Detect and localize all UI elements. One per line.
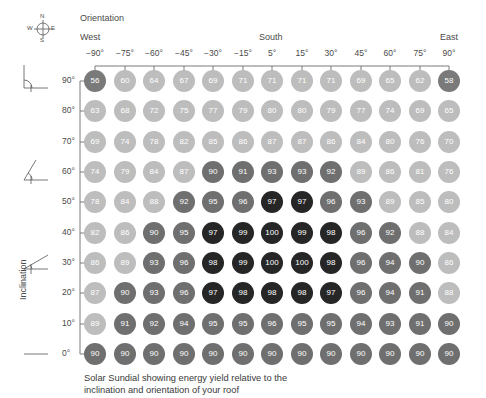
yield-cell: 69 xyxy=(409,100,431,122)
orientation-tick: −45° xyxy=(169,48,199,58)
yield-cell: 60 xyxy=(114,70,136,92)
yield-cell: 90 xyxy=(202,161,224,183)
yield-cell: 80 xyxy=(261,100,283,122)
inclination-axis-label: Inclination xyxy=(18,259,28,300)
yield-cell: 90 xyxy=(438,313,460,335)
yield-cell: 87 xyxy=(84,282,106,304)
yield-cell: 74 xyxy=(379,100,401,122)
yield-cell: 91 xyxy=(114,313,136,335)
yield-cell: 97 xyxy=(261,191,283,213)
yield-cell: 94 xyxy=(350,313,372,335)
yield-cell: 88 xyxy=(409,222,431,244)
caption-line-2: inclination and orientation of your roof xyxy=(84,384,384,396)
yield-cell: 69 xyxy=(202,70,224,92)
yield-cell: 90 xyxy=(202,343,224,365)
yield-cell: 86 xyxy=(84,252,106,274)
orientation-tick: 15° xyxy=(287,48,317,58)
yield-cell: 64 xyxy=(143,70,165,92)
yield-cell: 90 xyxy=(320,343,342,365)
inclination-bracket xyxy=(80,81,85,354)
yield-cell: 92 xyxy=(173,191,195,213)
yield-cell: 89 xyxy=(350,161,372,183)
yield-cell: 87 xyxy=(291,131,313,153)
yield-cell: 77 xyxy=(202,100,224,122)
yield-cell: 74 xyxy=(84,161,106,183)
inclination-tick: 20° xyxy=(62,287,86,297)
yield-cell: 86 xyxy=(114,222,136,244)
yield-cell: 90 xyxy=(143,222,165,244)
yield-cell: 92 xyxy=(320,161,342,183)
yield-cell: 96 xyxy=(350,282,372,304)
orientation-tick: −60° xyxy=(139,48,169,58)
inclination-tick: 50° xyxy=(62,196,86,206)
yield-cell: 91 xyxy=(232,161,254,183)
yield-cell: 70 xyxy=(438,131,460,153)
yield-cell: 91 xyxy=(409,313,431,335)
orientation-tick: 45° xyxy=(346,48,376,58)
inclination-tick: 60° xyxy=(62,166,86,176)
east-label: East xyxy=(440,32,458,42)
yield-cell: 65 xyxy=(438,100,460,122)
orientation-tick: −90° xyxy=(80,48,110,58)
yield-cell: 86 xyxy=(379,161,401,183)
yield-cell: 89 xyxy=(379,191,401,213)
yield-cell: 90 xyxy=(114,282,136,304)
inclination-tick: 10° xyxy=(62,318,86,328)
yield-cell: 92 xyxy=(379,222,401,244)
yield-cell: 97 xyxy=(291,191,313,213)
yield-cell: 98 xyxy=(261,282,283,304)
yield-cell: 71 xyxy=(261,70,283,92)
yield-cell: 65 xyxy=(379,70,401,92)
yield-cell: 62 xyxy=(409,70,431,92)
yield-cell: 86 xyxy=(232,131,254,153)
yield-cell: 89 xyxy=(84,313,106,335)
yield-cell: 88 xyxy=(143,191,165,213)
yield-cell: 86 xyxy=(438,252,460,274)
orientation-tick: 5° xyxy=(257,48,287,58)
yield-cell: 79 xyxy=(114,161,136,183)
yield-cell: 90 xyxy=(438,343,460,365)
yield-cell: 90 xyxy=(379,343,401,365)
yield-cell: 90 xyxy=(232,343,254,365)
yield-cell: 76 xyxy=(438,161,460,183)
yield-cell: 85 xyxy=(202,131,224,153)
yield-cell: 79 xyxy=(232,100,254,122)
yield-cell: 96 xyxy=(261,313,283,335)
inclination-tick: 40° xyxy=(62,227,86,237)
yield-cell: 93 xyxy=(143,252,165,274)
yield-cell: 94 xyxy=(379,252,401,274)
compass-icon xyxy=(34,20,52,38)
yield-cell: 90 xyxy=(409,252,431,274)
inclination-tick: 90° xyxy=(62,75,86,85)
yield-cell: 74 xyxy=(114,131,136,153)
inclination-tick: 30° xyxy=(62,257,86,267)
yield-cell: 80 xyxy=(291,100,313,122)
yield-cell: 90 xyxy=(261,343,283,365)
yield-cell: 84 xyxy=(114,191,136,213)
yield-cell: 78 xyxy=(143,131,165,153)
yield-cell: 99 xyxy=(232,222,254,244)
yield-cell: 98 xyxy=(291,282,313,304)
yield-cell: 95 xyxy=(320,313,342,335)
yield-cell: 84 xyxy=(438,222,460,244)
yield-cell: 90 xyxy=(409,343,431,365)
yield-cell: 96 xyxy=(232,191,254,213)
west-label: West xyxy=(80,32,100,42)
yield-cell: 96 xyxy=(320,191,342,213)
south-label: South xyxy=(259,32,283,42)
yield-cell: 95 xyxy=(202,313,224,335)
yield-cell: 82 xyxy=(173,131,195,153)
yield-cell: 71 xyxy=(291,70,313,92)
yield-cell: 94 xyxy=(379,282,401,304)
yield-cell: 84 xyxy=(350,131,372,153)
yield-cell: 95 xyxy=(202,191,224,213)
yield-cell: 78 xyxy=(84,191,106,213)
yield-cell: 90 xyxy=(291,343,313,365)
orientation-tick: 30° xyxy=(316,48,346,58)
yield-cell: 68 xyxy=(114,100,136,122)
yield-cell: 90 xyxy=(114,343,136,365)
yield-cell: 84 xyxy=(143,161,165,183)
orientation-tick: 75° xyxy=(405,48,435,58)
yield-cell: 96 xyxy=(350,252,372,274)
yield-cell: 79 xyxy=(320,100,342,122)
